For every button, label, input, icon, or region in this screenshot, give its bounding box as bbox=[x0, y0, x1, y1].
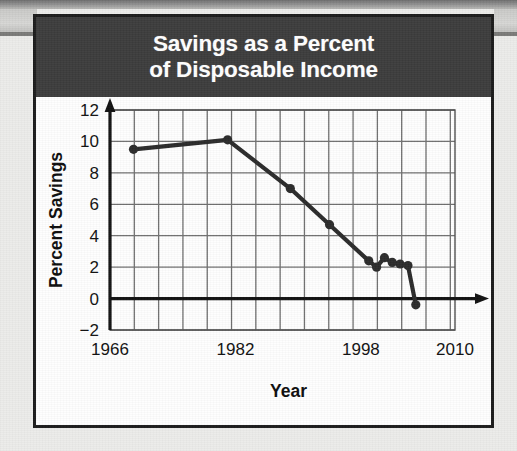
data-point-marker bbox=[372, 263, 381, 272]
data-point-marker bbox=[396, 259, 405, 268]
data-point-marker bbox=[388, 258, 397, 267]
page-left-band-edge bbox=[0, 32, 37, 36]
y-tick-label: −2 bbox=[80, 321, 99, 340]
y-tick-label: 8 bbox=[90, 164, 99, 183]
y-axis-arrowhead bbox=[105, 98, 116, 112]
data-point-marker bbox=[411, 300, 420, 309]
data-point-marker bbox=[129, 145, 138, 154]
figure-card: Savings as a Percent of Disposable Incom… bbox=[33, 14, 494, 428]
data-series-markers bbox=[129, 135, 420, 309]
figure-title: Savings as a Percent of Disposable Incom… bbox=[149, 31, 378, 84]
figure-title-line-1: Savings as a Percent bbox=[153, 31, 374, 56]
figure-title-banner: Savings as a Percent of Disposable Incom… bbox=[36, 17, 491, 97]
line-chart: 121086420−2 1966198219982010 Percent Sav… bbox=[36, 97, 491, 425]
data-point-marker bbox=[325, 220, 334, 229]
page-right-band bbox=[494, 9, 517, 33]
y-tick-label: 0 bbox=[90, 290, 99, 309]
y-axis-title: Percent Savings bbox=[46, 152, 66, 288]
x-axis-tick-labels: 1966198219982010 bbox=[91, 340, 474, 359]
y-tick-label: 12 bbox=[80, 101, 99, 120]
data-point-marker bbox=[286, 184, 295, 193]
data-point-marker bbox=[223, 135, 232, 144]
data-point-marker bbox=[403, 261, 412, 270]
x-axis-title: Year bbox=[270, 381, 307, 401]
data-series-line bbox=[134, 140, 416, 305]
chart-plot-panel: 121086420−2 1966198219982010 Percent Sav… bbox=[36, 97, 491, 425]
y-axis-tick-labels: 121086420−2 bbox=[80, 101, 99, 340]
x-axis-arrowhead bbox=[475, 293, 489, 304]
y-tick-label: 10 bbox=[80, 132, 99, 151]
y-tick-label: 4 bbox=[90, 227, 99, 246]
y-tick-label: 6 bbox=[90, 195, 99, 214]
chart-axes bbox=[105, 98, 489, 330]
page-left-band bbox=[0, 9, 37, 33]
x-tick-label: 1982 bbox=[217, 340, 255, 359]
page-top-band bbox=[0, 0, 517, 9]
page-right-band-edge bbox=[494, 32, 517, 36]
page-background: Savings as a Percent of Disposable Incom… bbox=[0, 0, 517, 451]
y-tick-label: 2 bbox=[90, 258, 99, 277]
x-tick-label: 2010 bbox=[436, 340, 474, 359]
x-tick-label: 1966 bbox=[91, 340, 129, 359]
data-point-marker bbox=[380, 253, 389, 262]
figure-title-line-2: of Disposable Income bbox=[149, 57, 378, 83]
data-point-marker bbox=[364, 256, 373, 265]
x-tick-label: 1998 bbox=[342, 340, 380, 359]
